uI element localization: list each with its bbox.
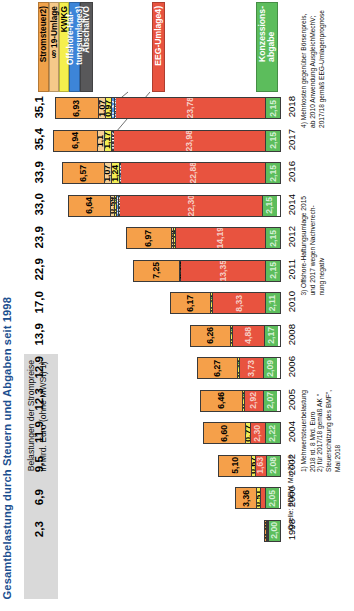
stacked-bar[interactable]: 6,600,772,302,22 [203,422,281,444]
bar-segment-stromsteuer[interactable]: 5,10 [219,456,252,476]
stacked-bar[interactable]: 6,640,590,350,260,0522,302,15 [68,195,281,217]
legend-label-eeg: EEG-Umlage4) [154,6,163,66]
stacked-bar[interactable]: 6,170,358,332,11 [170,292,281,314]
bar-segment-konzession[interactable]: 2,09 [264,358,277,378]
bar-segment-stromsteuer[interactable]: 6,64 [69,196,111,216]
bar-segment-value: 2,07 [266,392,275,409]
stacked-bar[interactable]: 6,270,353,732,09 [197,357,281,379]
bar-total-value: 17,0 [33,291,45,314]
bar-segment-value: 2,09 [266,360,275,377]
stacked-bar[interactable]: 6,931,070,970,370,05323,782,15 [55,97,281,119]
legend-label-konzession-line-2: abgabe [266,32,276,62]
legend-item-abschaltvo[interactable]: AbschaltVO [80,2,93,92]
bar-segment-value: 6,46 [217,392,226,409]
bar-segment-konzession[interactable]: 2,15 [266,131,280,151]
footnote-1: 1) Mehrwertsteuerbelastung 2018 rd. 8 Mr… [300,390,318,472]
stacked-bar[interactable]: 6,260,354,882,17 [190,325,281,347]
bar-total-value: 13,9 [33,323,45,346]
bar-segment-konzession[interactable]: 2,08 [267,456,280,476]
bar-segment-value: 2,11 [268,295,277,311]
stacked-bar[interactable]: 6,571,071,240,1622,882,15 [62,162,281,184]
page-title: Gesamtbelastung durch Steuern und Abgabe… [2,297,14,599]
bar-segment-eeg[interactable]: 8,33 [213,293,266,313]
bar-segment-kwkg[interactable]: 1,24 [112,163,120,183]
bar-segment-stromsteuer[interactable]: 6,17 [171,293,210,313]
bar-segment-eeg[interactable]: 2,92 [245,391,264,411]
bar-segment-value: 2,08 [269,457,278,474]
bar-segment-konzession[interactable]: 2,15 [263,196,277,216]
bar-segment-stromsteuer[interactable]: 6,26 [191,326,231,346]
bar-total-label: 33,0 [28,193,50,217]
bar-segment-stromsteuer[interactable]: 6,93 [56,98,100,118]
bar-row: 33,96,571,071,240,1622,882,152016 [28,160,303,184]
stacked-bar[interactable]: 7,250,1513,352,15 [133,260,281,282]
bar-row: 35,46,941,11,170,030,0123,982,152017 [28,128,303,152]
bar-segment-paragraph19[interactable]: 1,07 [105,163,112,183]
legend-item-eeg[interactable]: EEG-Umlage4) [152,2,165,92]
bar-segment-stromsteuer[interactable]: 7,25 [134,261,180,281]
bar-row: 11,96,600,772,302,222004 [28,420,303,444]
bar-total-label: 11,9 [28,420,50,444]
bar-segment-value: 2,15 [269,165,278,182]
legend-item-konzessionsabgabe[interactable]: Konzessions- abgabe [256,2,278,92]
bar-segment-stromsteuer[interactable]: 6,60 [204,423,246,443]
footnote-4-line-3: 2017/18 gemäß EEG-Umlagenprognose [318,10,325,128]
bar-segment-stromsteuer[interactable]: 3,36 [236,488,257,508]
stacked-bar[interactable]: 0,202,00 [264,520,281,542]
bar-segment-eeg[interactable]: 23,98 [114,131,266,151]
legend-label-konzessionsabgabe: Konzessions- abgabe [258,6,276,62]
bar-segment-konzession[interactable]: 2,15 [266,228,280,248]
bar-segment-stromsteuer[interactable]: 6,57 [63,163,105,183]
bar-segment-value: 2,15 [269,132,278,149]
bar-segment-konzession[interactable]: 2,22 [266,423,280,443]
bar-segment-konzession[interactable]: 2,07 [264,391,277,411]
bar-segment-eeg[interactable]: 23,78 [116,98,267,118]
bar-total-label: 23,9 [28,225,50,249]
bar-segment-value: 22,30 [187,196,196,216]
bar-row: 6,93,360,512,052000 [28,485,303,509]
bar-total-label: 35,1 [28,95,50,119]
legend-item-offshore[interactable]: Offshore-Haf- tungsumlage3) [69,2,80,92]
bar-segment-eeg[interactable]: 2,30 [251,423,266,443]
bar-segment-konzession[interactable]: 2,00 [269,521,280,541]
bar-row: 33,06,640,590,350,260,0522,302,152014 [28,193,303,217]
bar-segment-paragraph19[interactable]: 1,07 [99,98,106,118]
bar-total-value: 9,5 [33,456,45,472]
bar-segment-konzession[interactable]: 2,15 [266,98,280,118]
stacked-bar[interactable]: 6,460,352,922,07 [200,390,281,412]
bar-segment-konzession[interactable]: 2,11 [266,293,279,313]
bar-segment-eeg[interactable]: 14,19 [176,228,267,248]
bar-segment-konzession[interactable]: 2,15 [266,163,280,183]
bar-row: 23,96,970,440,1914,192,152012 [28,225,303,249]
bar-segment-stromsteuer[interactable]: 6,46 [201,391,242,411]
stacked-bar[interactable]: 6,970,440,1914,192,15 [126,227,281,249]
bar-segment-eeg[interactable]: 22,88 [121,163,266,183]
bar-segment-value: 2,15 [269,230,278,247]
bar-segment-eeg[interactable]: 4,88 [233,326,264,346]
footnote-1-line-2: 2018 rd. 8 Mrd. Euro [309,412,316,472]
stacked-bar[interactable]: 6,941,11,170,030,0123,982,15 [53,130,281,152]
bar-segment-konzession[interactable]: 2,05 [266,488,279,508]
bar-segment-kwkg[interactable]: 1,17 [105,131,112,151]
footnote-4-line-2: ab 2010 Anwendung AusgleichMechV; [309,16,316,128]
bar-segment-konzession[interactable]: 2,15 [266,261,280,281]
footnote-2: 2) für 2017/18 gemäß AK " Steuerschätzun… [316,390,343,472]
bar-segment-eeg[interactable]: 13,35 [181,261,266,281]
bar-segment-paragraph19[interactable]: 1,1 [98,131,105,151]
bar-segment-stromsteuer[interactable]: 6,27 [198,358,238,378]
bar-total-label: 13,9 [28,323,50,347]
legend-item-stromsteuer[interactable]: Stromsteuer2) [38,2,49,92]
bar-segment-eeg[interactable]: 22,30 [120,196,263,216]
bar-segment-eeg[interactable]: 1,63 [256,456,266,476]
stacked-bar[interactable]: 5,100,671,632,08 [218,455,281,477]
bar-segment-eeg[interactable]: 3,73 [240,358,264,378]
bar-segment-stromsteuer[interactable]: 6,94 [54,131,98,151]
bar-total-value: 12,9 [33,356,45,379]
axis-year-label: 2017 [281,128,303,152]
bar-segment-konzession[interactable]: 2,17 [265,326,279,346]
stacked-bar[interactable]: 3,360,512,05 [235,487,281,509]
bar-segment-stromsteuer[interactable]: 6,97 [127,228,172,248]
legend-item-paragraph19[interactable]: § 19-Umlage [49,2,59,92]
footnote-1-line-1: 1) Mehrwertsteuerbelastung [300,390,307,472]
footnote-4: 4) Mehrkosten gegenüber Börsenpreis, ab … [300,10,327,128]
